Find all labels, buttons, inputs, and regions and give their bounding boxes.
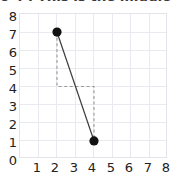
chart-title: o 4 : This is the middle ite: [0, 0, 170, 7]
data-layer: [20, 14, 168, 159]
x-tick-6: 6: [121, 161, 137, 174]
x-tick-1: 1: [29, 161, 45, 174]
y-tick-2: 2: [1, 118, 17, 131]
data-point-marker-1: [52, 28, 61, 37]
x-tick-7: 7: [140, 161, 156, 174]
x-tick-5: 5: [103, 161, 119, 174]
y-tick-0: 0: [1, 154, 17, 167]
y-tick-1: 1: [1, 136, 17, 149]
x-tick-4: 4: [84, 161, 100, 174]
chart-figure: o 4 : This is the middle ite 8 7 6 5 4 3…: [0, 0, 170, 179]
plot-area: [19, 13, 167, 158]
y-tick-5: 5: [1, 64, 17, 77]
x-axis-tick-labels: 1 2 3 4 5 6 7 8: [19, 161, 167, 179]
y-tick-3: 3: [1, 100, 17, 113]
x-tick-3: 3: [66, 161, 82, 174]
y-tick-4: 4: [1, 82, 17, 95]
x-tick-2: 2: [47, 161, 63, 174]
y-axis-tick-labels: 8 7 6 5 4 3 2 1 0: [0, 0, 17, 179]
data-point-marker-2: [89, 136, 98, 145]
y-tick-8: 8: [1, 10, 17, 23]
x-tick-8: 8: [158, 161, 170, 174]
y-tick-6: 6: [1, 46, 17, 59]
y-tick-7: 7: [1, 28, 17, 41]
